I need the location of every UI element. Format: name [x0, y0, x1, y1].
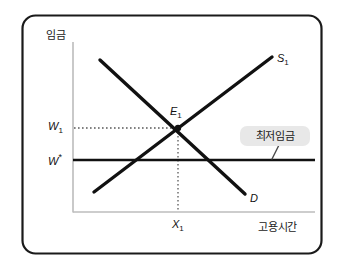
demand-label-base: D	[250, 192, 258, 204]
y-tick-label-wstar: W*	[48, 152, 62, 167]
equilibrium-point-marker	[175, 125, 181, 131]
minimum-wage-callout-label: 최저임금	[240, 126, 310, 146]
x-tick-x1-subscript: 1	[179, 224, 183, 233]
supply-curve-label: S1	[277, 52, 289, 67]
demand-curve-label: D	[250, 192, 258, 207]
y-axis-label: 임금	[46, 26, 66, 42]
equilibrium-point-label: E1	[170, 105, 182, 120]
x-axis-label: 고용시간	[258, 218, 297, 234]
y-tick-label-w1: W1	[48, 120, 63, 135]
y-tick-w1-base: W	[48, 120, 58, 132]
equilibrium-label-subscript: 1	[177, 111, 181, 120]
figure-container: 임금 고용시간 W1 W* X1 E1 S1 D 최저임금	[0, 0, 343, 269]
x-tick-label-x1: X1	[172, 218, 184, 233]
y-tick-wstar-base: W	[48, 155, 58, 167]
supply-label-subscript: 1	[284, 58, 288, 67]
y-tick-w1-subscript: 1	[58, 126, 62, 135]
y-tick-wstar-superscript: *	[58, 152, 62, 162]
